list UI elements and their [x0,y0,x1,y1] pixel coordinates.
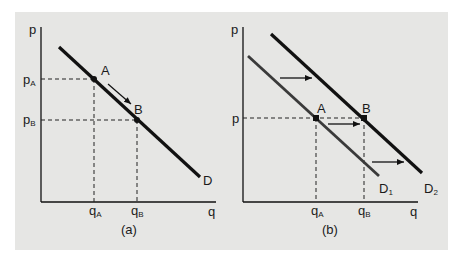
panel-a-point-a [91,76,97,82]
panel-b-caption: (b) [322,222,338,237]
panel-a-qB-label: qB [131,203,144,219]
panel-a-curve-label: D [203,173,212,188]
panel-a-pB-label: pB [23,112,36,128]
panel-a-y-axis-label: p [29,22,36,37]
panel-b-d1-label: D1 [379,181,393,197]
panel-b-x-axis-label: q [410,204,417,219]
panel-a-point-b-label: B [134,102,143,117]
panel-a-demand-curve [59,47,200,177]
demand-diagram: p q pA pB qA qB A B D (a) p q p qA [0,0,460,254]
panel-b-d2-label: D2 [424,181,438,197]
panel-a-point-b [134,117,140,123]
panel-b-point-b-label: B [362,101,371,116]
panel-b: p q p qA qB A B D1 D2 (b) [231,22,438,237]
panel-b-demand-curve-d2 [271,34,422,173]
panel-a: p q pA pB qA qB A B D (a) [23,22,216,237]
panel-a-pA-label: pA [23,72,36,88]
panel-b-y-axis-label: p [231,22,238,37]
panel-a-point-a-label: A [101,63,110,78]
panel-b-qB-label: qB [358,203,371,219]
panel-b-price-label: p [232,111,239,126]
panel-a-qA-label: qA [89,203,102,219]
panel-b-qA-label: qA [311,203,324,219]
panel-a-x-axis-label: q [208,204,215,219]
panel-a-caption: (a) [121,222,137,237]
panel-b-point-a-label: A [317,101,326,116]
